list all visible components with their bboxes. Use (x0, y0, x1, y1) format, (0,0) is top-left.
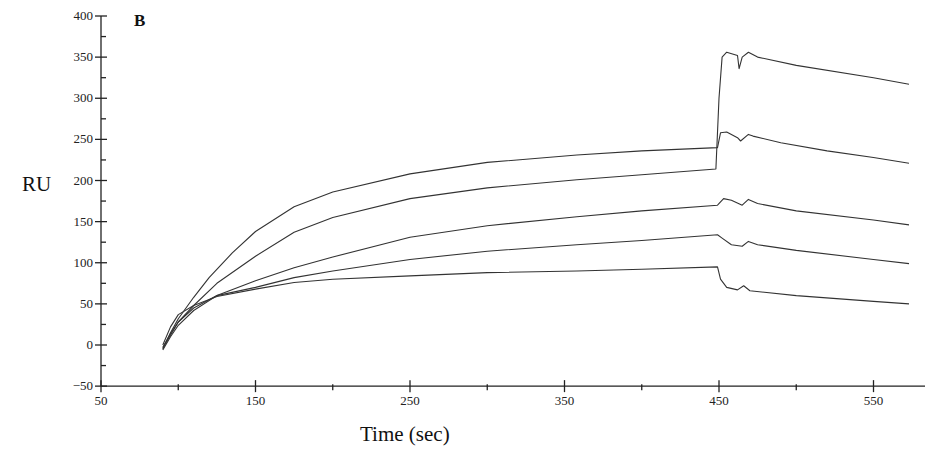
x-tick-label: 50 (95, 393, 108, 408)
y-axis: −50050100150200250300350400 (73, 8, 107, 393)
y-tick-label: 50 (80, 296, 93, 311)
sensorgram-curve-5 (163, 267, 909, 345)
y-tick-label: 150 (74, 214, 94, 229)
x-tick-label: 350 (555, 393, 575, 408)
sensorgram-curve-3 (163, 199, 909, 350)
x-tick-label: 550 (864, 393, 884, 408)
chart-svg: −50050100150200250300350400 501502503504… (0, 0, 939, 458)
x-axis: 50150250350450550 (95, 380, 926, 408)
y-tick-label: 200 (74, 173, 94, 188)
sensorgram-curve-2 (163, 52, 909, 347)
y-tick-label: −50 (73, 378, 93, 393)
x-tick-label: 150 (246, 393, 266, 408)
plot-curves (163, 52, 909, 350)
sensorgram-curve-4 (163, 235, 909, 348)
x-tick-label: 450 (709, 393, 729, 408)
y-tick-label: 300 (74, 90, 94, 105)
y-tick-label: 100 (74, 255, 94, 270)
y-tick-label: 0 (87, 337, 94, 352)
x-axis-title: Time (sec) (360, 422, 450, 446)
y-axis-title: RU (22, 172, 51, 196)
y-tick-label: 400 (74, 8, 94, 23)
x-tick-label: 250 (400, 393, 420, 408)
sensorgram-curve-1 (163, 132, 909, 349)
y-tick-label: 250 (74, 131, 94, 146)
y-tick-label: 350 (74, 49, 94, 64)
panel-label: B (134, 11, 145, 30)
